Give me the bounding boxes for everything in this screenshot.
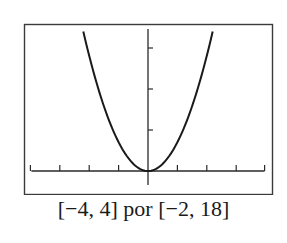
axes: [30, 29, 264, 185]
window-range-caption: [−4, 4] por [−2, 18]: [0, 196, 287, 222]
graph-window: [0, 0, 287, 195]
